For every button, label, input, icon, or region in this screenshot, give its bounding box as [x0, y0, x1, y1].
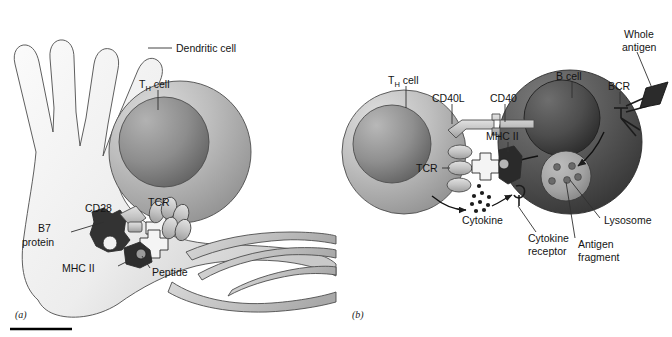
label-b-cell: B cell: [556, 70, 582, 82]
label-cytokine-receptor-line2: receptor: [528, 245, 567, 257]
label-antigen-fragment-line1: Antigen: [578, 238, 614, 250]
label-th-cell-b-tail: cell: [400, 74, 419, 86]
label-antigen-fragment-line2: fragment: [578, 251, 620, 263]
label-peptide: Peptide: [152, 266, 188, 278]
label-cd40l: CD40L: [432, 92, 465, 104]
lysosome-shape: [541, 151, 591, 201]
antigen-fragment-dot: [569, 163, 576, 170]
tcr-receptor-b: [447, 145, 472, 192]
label-tcr-b: TCR: [416, 162, 438, 174]
panel-caption-b: (b): [352, 309, 364, 321]
peptide-shape: [136, 249, 146, 259]
label-b7-protein-line2: protein: [22, 236, 54, 248]
label-whole-antigen-line1: Whole: [624, 28, 654, 40]
label-lysosome: Lysosome: [604, 214, 652, 226]
label-b7-protein-line1: B7: [38, 222, 51, 234]
label-cd28: CD28: [85, 202, 112, 214]
b7-protein-highlight: [103, 236, 117, 250]
antigen-fragment-dot: [549, 178, 556, 185]
label-cytokine-receptor-line1: Cytokine: [528, 232, 569, 244]
label-bcr: BCR: [608, 80, 631, 92]
label-mhc2-a: MHC II: [62, 262, 95, 274]
th-cell-b: [342, 90, 466, 214]
antigen-fragment-dot: [554, 164, 561, 171]
antigen-fragment-dot: [575, 174, 582, 181]
figure-container: Dendritic cell TH cell CD28 TCR B7 prote…: [0, 0, 672, 337]
label-cd40: CD40: [490, 92, 517, 104]
peptide-shape-b: [499, 159, 509, 169]
th-cell-a-nucleus: [119, 97, 209, 187]
label-mhc2-b: MHC II: [486, 130, 519, 142]
label-whole-antigen-line2: antigen: [622, 41, 657, 53]
th-cell-a: [109, 81, 251, 223]
panel-caption-a: (a): [15, 309, 27, 321]
figure-svg: Dendritic cell TH cell CD28 TCR B7 prote…: [0, 0, 672, 337]
label-cytokine: Cytokine: [462, 214, 503, 226]
antigen-fragment-dot: [564, 177, 571, 184]
label-th-cell-a-tail: cell: [151, 78, 170, 90]
label-dendritic-cell: Dendritic cell: [176, 42, 236, 54]
label-tcr-a: TCR: [148, 196, 170, 208]
b-cell-nucleus: [524, 80, 600, 156]
